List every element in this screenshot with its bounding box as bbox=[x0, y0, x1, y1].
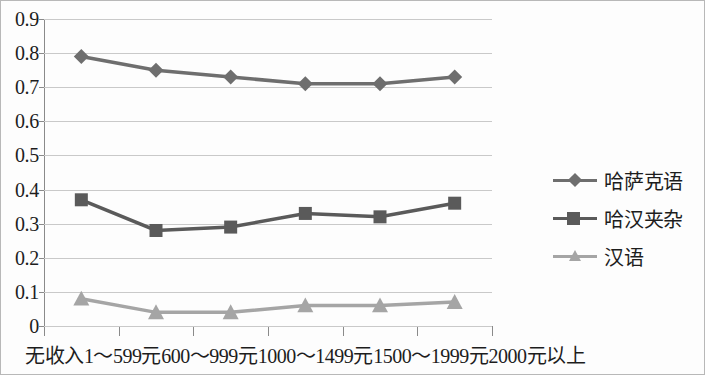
series-2 bbox=[75, 193, 461, 237]
series-line bbox=[81, 200, 454, 231]
y-axis-tick-label: 0.7 bbox=[1, 77, 39, 97]
data-point-marker bbox=[448, 197, 461, 210]
y-axis-tick-label: 0.4 bbox=[1, 180, 39, 200]
legend-item-3[interactable]: 汉语 bbox=[553, 237, 703, 275]
x-axis-category-label: 2000元以上 bbox=[489, 340, 586, 369]
data-point-marker bbox=[447, 69, 462, 84]
legend-marker-shape bbox=[569, 250, 581, 261]
y-axis-tick-label: 0.8 bbox=[1, 43, 39, 63]
legend-marker-triangle-icon bbox=[553, 246, 597, 266]
x-axis-category-label: 600～999元 bbox=[161, 340, 257, 369]
data-point-marker bbox=[223, 69, 238, 84]
data-point-marker bbox=[149, 63, 164, 78]
data-point-marker bbox=[75, 193, 88, 206]
x-axis-category-label: 无收入 bbox=[25, 340, 84, 369]
legend-label: 哈汉夹杂 bbox=[604, 204, 683, 233]
x-tick-mark bbox=[44, 327, 45, 336]
data-point-marker bbox=[74, 49, 89, 64]
data-point-marker bbox=[374, 210, 387, 223]
x-tick-mark bbox=[268, 327, 269, 336]
legend-item-1[interactable]: 哈萨克语 bbox=[553, 161, 703, 199]
legend-label: 哈萨克语 bbox=[604, 166, 683, 195]
y-axis-tick-label: 0.2 bbox=[1, 248, 39, 268]
series-line bbox=[81, 299, 454, 313]
data-point-marker bbox=[298, 76, 313, 91]
y-axis-tick-label: 0.9 bbox=[1, 9, 39, 29]
data-point-marker bbox=[373, 76, 388, 91]
legend-marker-shape bbox=[568, 173, 582, 187]
x-tick-mark bbox=[193, 327, 194, 336]
line-chart: 0.90.80.70.60.50.40.30.20.10 无收入1～599元60… bbox=[0, 0, 705, 375]
legend-marker-shape bbox=[567, 212, 580, 225]
y-axis-tick-label: 0 bbox=[1, 316, 39, 336]
legend-marker-diamond-icon bbox=[553, 170, 597, 190]
y-axis-tick-label: 0.5 bbox=[1, 145, 39, 165]
x-axis-category-label: 1000～1499元 bbox=[258, 340, 373, 369]
legend-label: 汉语 bbox=[604, 242, 644, 271]
x-tick-mark bbox=[417, 327, 418, 336]
legend-marker-square-icon bbox=[553, 208, 597, 228]
x-axis-category-labels: 无收入1～599元600～999元1000～1499元1500～1999元200… bbox=[25, 340, 585, 369]
x-axis-category-label: 1500～1999元 bbox=[373, 340, 488, 369]
series-line bbox=[81, 57, 454, 84]
chart-legend: 哈萨克语哈汉夹杂汉语 bbox=[553, 161, 703, 275]
series-layer bbox=[44, 19, 492, 326]
y-axis-tick-label: 0.3 bbox=[1, 214, 39, 234]
x-tick-mark bbox=[119, 327, 120, 336]
x-tick-mark bbox=[492, 327, 493, 336]
series-3 bbox=[73, 291, 462, 319]
plot-area bbox=[44, 19, 492, 326]
data-point-marker bbox=[224, 221, 237, 234]
gridline bbox=[44, 326, 492, 327]
legend-item-2[interactable]: 哈汉夹杂 bbox=[553, 199, 703, 237]
data-point-marker bbox=[150, 224, 163, 237]
series-1 bbox=[74, 49, 462, 91]
y-axis-tick-label: 0.1 bbox=[1, 282, 39, 302]
y-tick-mark bbox=[39, 326, 44, 327]
x-axis-category-label: 1～599元 bbox=[84, 340, 161, 369]
data-point-marker bbox=[299, 207, 312, 220]
x-tick-mark bbox=[343, 327, 344, 336]
y-axis-tick-label: 0.6 bbox=[1, 111, 39, 131]
y-axis-labels: 0.90.80.70.60.50.40.30.20.10 bbox=[1, 1, 39, 375]
